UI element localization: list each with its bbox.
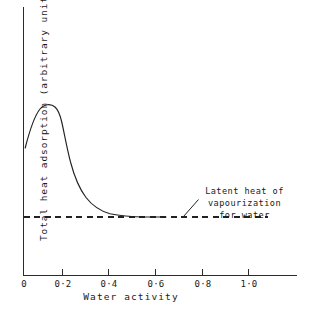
x-axis-title: Water activity <box>0 291 262 302</box>
x-tick-label-0-4: 0·4 <box>95 279 123 289</box>
x-tick-label-0-6: 0·6 <box>142 279 170 289</box>
annotation-line-2: for water <box>166 209 323 221</box>
x-tick-label-1-0: 1·0 <box>235 279 263 289</box>
x-tick-label-0: 0 <box>14 279 34 289</box>
chart-figure: 0 0·2 0·4 0·6 0·8 1·0 Water activity Tot… <box>0 0 323 310</box>
latent-heat-annotation: Latent heat of vapourization for water <box>166 185 323 221</box>
y-axis-title: Total heat adsorption (arbitrary units) <box>38 36 49 241</box>
x-tick-label-0-8: 0·8 <box>189 279 217 289</box>
annotation-line-1: Latent heat of vapourization <box>205 186 284 208</box>
x-tick-label-0-2: 0·2 <box>49 279 77 289</box>
